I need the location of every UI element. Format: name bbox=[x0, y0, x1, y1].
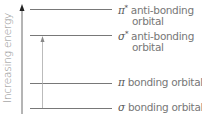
pi-label: π bonding orbital bbox=[118, 77, 202, 88]
energy-axis-arrow bbox=[20, 4, 25, 114]
axis-label: Increasing energy bbox=[1, 8, 15, 108]
sigma-star-label: σ* anti-bonding orbital bbox=[118, 29, 194, 53]
sigma-label: σ bonding orbital bbox=[118, 102, 202, 113]
sigma-symbol: σ bbox=[118, 101, 125, 113]
pi-symbol: π bbox=[118, 76, 125, 88]
pi-star-label: π* anti-bonding orbital bbox=[118, 3, 194, 27]
transition-arrow bbox=[41, 36, 45, 108]
orbital-energy-diagram: Increasing energy π* anti-bonding orbita… bbox=[0, 0, 202, 118]
